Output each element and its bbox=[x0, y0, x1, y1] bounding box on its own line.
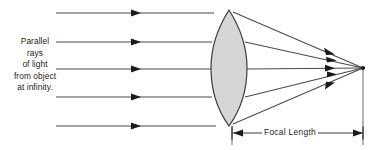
focal-point-marker bbox=[361, 66, 365, 70]
refracted-rays-group bbox=[233, 12, 363, 124]
refracted-ray-line-4 bbox=[245, 68, 363, 97]
refracted-ray-line-3 bbox=[247, 68, 363, 69]
incoming-ray bbox=[56, 122, 216, 129]
incoming-ray bbox=[56, 38, 212, 45]
focal-length-right-arrowhead bbox=[353, 130, 363, 137]
refracted-ray-arrowhead-4 bbox=[327, 72, 337, 78]
focal-length-label: Focal Length bbox=[262, 127, 318, 137]
converging-lens-shape bbox=[211, 10, 247, 126]
parallel-rays-caption: Parallel rays of light from object at in… bbox=[4, 36, 66, 94]
incoming-ray bbox=[56, 93, 212, 100]
incoming-ray-arrowhead-1 bbox=[131, 9, 141, 16]
incoming-ray-arrowhead-5 bbox=[131, 122, 141, 129]
refracted-ray-line-5 bbox=[233, 68, 363, 124]
incoming-ray bbox=[56, 65, 211, 72]
caption-line-1: Parallel bbox=[4, 36, 66, 48]
refracted-ray-arrowhead-3 bbox=[325, 65, 335, 72]
caption-line-4: from object bbox=[4, 71, 66, 83]
refracted-ray bbox=[233, 12, 363, 68]
incoming-ray-arrowhead-4 bbox=[131, 93, 141, 100]
refracted-ray-arrowhead-1 bbox=[324, 48, 335, 55]
refracted-ray-line-1 bbox=[233, 12, 363, 68]
caption-line-5: at infinity. bbox=[4, 82, 66, 94]
incoming-ray bbox=[56, 9, 214, 16]
focal-length-left-arrowhead bbox=[233, 130, 243, 137]
refracted-ray bbox=[233, 68, 363, 124]
refracted-ray bbox=[247, 65, 363, 72]
incoming-rays-group bbox=[56, 9, 216, 129]
optics-diagram: Parallel rays of light from object at in… bbox=[0, 0, 376, 150]
refracted-ray-arrowhead-5 bbox=[325, 82, 335, 90]
refracted-ray bbox=[245, 42, 363, 68]
incoming-ray-arrowhead-3 bbox=[131, 65, 141, 72]
caption-line-2: rays bbox=[4, 48, 66, 60]
refracted-ray-line-2 bbox=[245, 42, 363, 68]
caption-line-3: of light bbox=[4, 59, 66, 71]
refracted-ray bbox=[245, 68, 363, 97]
incoming-ray-arrowhead-2 bbox=[131, 38, 141, 45]
